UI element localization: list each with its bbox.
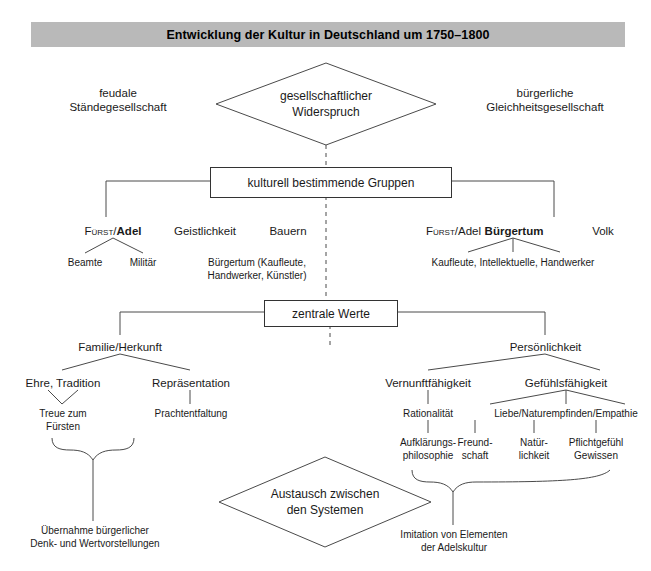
top-diamond-label: gesellschaftlicher Widerspruch bbox=[236, 88, 416, 120]
uebernahme-line1: Übernahme bürgerlicher bbox=[8, 524, 182, 537]
imitation-line1: Imitation von Elementen bbox=[378, 528, 530, 541]
buergertum-right-tick bbox=[513, 238, 560, 252]
value-vernunftfaehigkeit: Vernunftfähigkeit bbox=[366, 376, 490, 390]
bottom-diamond-label: Austausch zwischen den Systemen bbox=[235, 486, 415, 518]
group-item-geistlichkeit: Geistlichkeit bbox=[155, 224, 255, 238]
box-kulturell-label: kulturell bestimmende Gruppen bbox=[248, 176, 415, 190]
persoen-to-gefuehl bbox=[545, 354, 600, 370]
adel-to-militaer bbox=[113, 238, 143, 253]
uebernahme-line2: Denk- und Wertvorstellungen bbox=[8, 537, 182, 550]
sub-militaer: Militär bbox=[113, 256, 173, 269]
right-brace bbox=[412, 470, 610, 492]
gefuehl-tick-left bbox=[490, 390, 566, 404]
value-ehre-tradition: Ehre, Tradition bbox=[13, 376, 113, 390]
value-liebe-naturempfinden-empathie: Liebe/Naturempfinden/Empathie bbox=[466, 407, 651, 420]
page-title-text: Entwicklung der Kultur in Deutschland um… bbox=[166, 28, 489, 42]
diagram-canvas: Entwicklung der Kultur in Deutschland um… bbox=[0, 0, 651, 571]
value-persoenlichkeit: Persönlichkeit bbox=[493, 340, 598, 354]
group-item-fuerst-adel-left: Fürst/Adel bbox=[63, 224, 163, 238]
group-item-volk: Volk bbox=[575, 224, 631, 238]
familie-to-ehre bbox=[62, 354, 120, 370]
sub-buergertum-line2: Handwerker, Künstler) bbox=[182, 269, 332, 282]
imitation-line2: der Adelskultur bbox=[378, 541, 530, 554]
group-left-adel: Adel bbox=[117, 225, 142, 237]
sub-beamte: Beamte bbox=[52, 256, 118, 269]
bottom-diamond-line1: Austausch zwischen bbox=[235, 486, 415, 502]
persoen-to-vernunft bbox=[428, 354, 545, 370]
top-diamond-line1: gesellschaftlicher bbox=[236, 88, 416, 104]
value-treue-zum-fuersten: Treue zum Fürsten bbox=[30, 407, 96, 433]
ehre-tick-left bbox=[48, 390, 62, 404]
top-diamond-line2: Widerspruch bbox=[236, 104, 416, 120]
treue-line1: Treue zum bbox=[30, 407, 96, 420]
box-zentrale-werte[interactable]: zentrale Werte bbox=[264, 300, 398, 327]
gefuehl-tick-right bbox=[566, 390, 625, 404]
pflichtgefuehl-line2: Gewissen bbox=[554, 449, 638, 462]
value-prachtentfaltung: Prachtentfaltung bbox=[141, 407, 241, 420]
bottom-diamond-line2: den Systemen bbox=[235, 502, 415, 518]
value-rationalitaet: Rationalität bbox=[388, 407, 468, 420]
result-imitation-adelskultur: Imitation von Elementen der Adelskultur bbox=[378, 528, 530, 554]
buergertum-left-tick bbox=[468, 238, 513, 252]
sub-buergertum-kaufleute: Bürgertum (Kaufleute, Handwerker, Künstl… bbox=[182, 256, 332, 282]
value-freundschaft: Freund- schaft bbox=[445, 436, 505, 462]
group-right-fuerst: Fürst bbox=[426, 225, 455, 237]
group-item-buergertum: Bürgertum bbox=[468, 224, 560, 238]
sub-buergertum-line1: Bürgertum (Kaufleute, bbox=[182, 256, 332, 269]
value-gefuehlsfaehigkeit: Gefühlsfähigkeit bbox=[508, 376, 624, 390]
box-kulturell-bestimmende-gruppen[interactable]: kulturell bestimmende Gruppen bbox=[210, 167, 452, 198]
freundschaft-line2: schaft bbox=[445, 449, 505, 462]
box-zentrale-werte-label: zentrale Werte bbox=[292, 307, 370, 321]
label-feudale-line2: Ständegesellschaft bbox=[38, 100, 198, 114]
group-right-buergertum: Bürgertum bbox=[485, 225, 544, 237]
adel-to-beamte bbox=[85, 238, 113, 253]
value-familie-herkunft: Familie/Herkunft bbox=[60, 340, 180, 354]
freundschaft-line1: Freund- bbox=[445, 436, 505, 449]
value-repraesentation: Repräsentation bbox=[143, 376, 239, 390]
value-pflichtgefuehl-gewissen: Pflichtgefühl Gewissen bbox=[554, 436, 638, 462]
result-uebernahme-buergerlicher: Übernahme bürgerlicher Denk- und Wertvor… bbox=[8, 524, 182, 550]
label-buergerliche-line2: Gleichheitsgesellschaft bbox=[455, 100, 635, 114]
ehre-tick-right bbox=[62, 390, 78, 404]
left-brace bbox=[52, 438, 134, 460]
label-buergerliche-gleichheitsgesellschaft: bürgerliche Gleichheitsgesellschaft bbox=[455, 86, 635, 114]
sub-kaufleute-intellektuelle-handwerker: Kaufleute, Intellektuelle, Handwerker bbox=[423, 256, 603, 269]
treue-line2: Fürsten bbox=[30, 420, 96, 433]
pflichtgefuehl-line1: Pflichtgefühl bbox=[554, 436, 638, 449]
group-item-bauern: Bauern bbox=[248, 224, 328, 238]
label-buergerliche-line1: bürgerliche bbox=[455, 86, 635, 100]
group-left-fuerst: Fürst bbox=[85, 225, 114, 237]
page-title: Entwicklung der Kultur in Deutschland um… bbox=[31, 22, 625, 47]
label-feudale-staendegesellschaft: feudale Ständegesellschaft bbox=[38, 86, 198, 114]
familie-to-repraes bbox=[120, 354, 190, 370]
label-feudale-line1: feudale bbox=[38, 86, 198, 100]
